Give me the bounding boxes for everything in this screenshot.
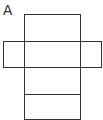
prism-net — [0, 0, 103, 120]
right-face — [81, 42, 102, 68]
bottom-face — [25, 68, 81, 95]
back-face — [25, 95, 81, 120]
top-face — [25, 15, 81, 42]
left-face — [4, 42, 25, 68]
front-face — [25, 42, 81, 68]
